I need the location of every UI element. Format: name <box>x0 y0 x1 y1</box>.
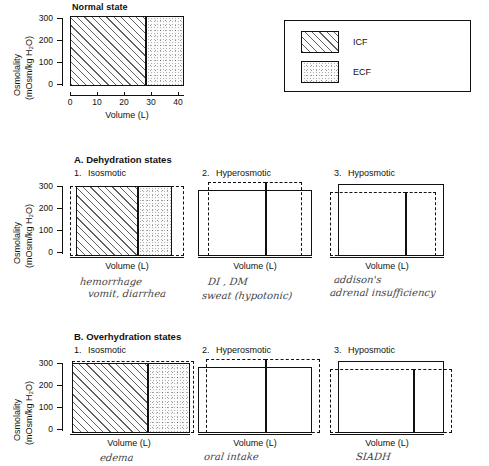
normal-x-tick-mark-30 <box>151 92 152 96</box>
panel-a3-x-axis-label: Volume (L) <box>330 261 444 271</box>
panel-a3-annotation-line-2: adrenal insufficiency <box>329 287 436 298</box>
panel-a2-x-axis-label: Volume (L) <box>198 261 312 271</box>
section-b-heading: B. Overhydration states <box>74 331 181 342</box>
panel-b3-x-axis-spine <box>330 434 444 435</box>
normal-x-tick-30: 30 <box>143 97 159 107</box>
normal-x-tick-mark-40 <box>178 92 179 96</box>
section-a-y-tick-mark-100 <box>57 230 62 231</box>
panel-a1-ecf-block <box>137 186 172 256</box>
panel-a3-icf-ecf-divider <box>405 192 407 256</box>
normal-y-axis-label-line1: Osmolality <box>12 54 22 96</box>
figure-root: { "figure": { "normal": { "title": "Norm… <box>0 0 489 466</box>
section-b-y-axis-label-line2: (mOsm/kg H₂O) <box>24 381 34 445</box>
panel-a1-annotation-line-1: hemorrhage <box>79 276 142 287</box>
normal-x-tick-40: 40 <box>170 97 186 107</box>
normal-ecf-block <box>145 16 184 86</box>
section-a-y-tick-100: 100 <box>28 225 53 235</box>
section-b-y-tick-mark-0 <box>57 429 62 430</box>
panel-b3-icf-ecf-divider <box>413 369 415 433</box>
panel-a3-reference-outline <box>338 184 444 256</box>
normal-x-axis-label: Volume (L) <box>70 110 184 120</box>
panel-b2-hyperosmotic: 2. Hyperosmotic Volume (L) oral intake <box>198 343 326 466</box>
normal-y-tick-100: 100 <box>28 57 53 67</box>
section-b-y-axis-spine <box>62 363 63 431</box>
panel-b2-x-axis-spine <box>198 434 312 435</box>
panel-a1-annotation-line-2: vomit, diarrhea <box>87 288 166 299</box>
panel-b1-number: 1. <box>74 345 82 355</box>
section-a-y-tick-300: 300 <box>28 181 53 191</box>
panel-a2-name: Hyperosmotic <box>216 168 271 178</box>
section-a-y-axis-label-line1: Osmolality <box>12 222 22 264</box>
section-a-y-axis-spine <box>62 186 63 254</box>
legend-label-ecf: ECF <box>353 67 371 77</box>
panel-a1-isosmotic: 1. Isosmotic Volume (L) hemorrhage vomit… <box>70 166 192 316</box>
panel-a2-hyperosmotic: 2. Hyperosmotic Volume (L) DI , DM sweat… <box>198 166 326 316</box>
panel-b2-reference-outline <box>198 367 312 433</box>
panel-b3-name: Hyposmotic <box>348 345 395 355</box>
section-a-y-axis-label-line2: (mOsm/kg H₂O) <box>24 204 34 268</box>
normal-y-tick-0: 0 <box>28 79 53 89</box>
section-b-y-tick-100: 100 <box>28 402 53 412</box>
section-a-y-tick-mark-300 <box>57 186 62 187</box>
section-b-y-tick-mark-300 <box>57 363 62 364</box>
panel-a3-number: 3. <box>334 168 342 178</box>
section-b-y-tick-300: 300 <box>28 358 53 368</box>
normal-x-tick-10: 10 <box>89 97 105 107</box>
panel-a2-reference-outline <box>198 190 312 256</box>
normal-y-tick-mark-300 <box>57 18 62 19</box>
normal-state-title: Normal state <box>72 2 128 12</box>
panel-b3-hyposmotic: 3. Hyposmotic Volume (L) SIADH <box>330 343 489 466</box>
legend-box: ICF ECF <box>284 20 471 92</box>
panel-b2-name: Hyperosmotic <box>216 345 271 355</box>
normal-x-tick-mark-10 <box>97 92 98 96</box>
normal-y-axis-spine <box>62 18 63 86</box>
panel-a1-name: Isosmotic <box>88 168 126 178</box>
normal-y-tick-200: 200 <box>28 35 53 45</box>
normal-y-tick-300: 300 <box>28 13 53 23</box>
normal-y-tick-mark-100 <box>57 62 62 63</box>
panel-b1-x-axis-label: Volume (L) <box>70 438 188 448</box>
panel-a2-annotation-line-1: DI , DM <box>207 276 248 287</box>
panel-a3-annotation-line-1: addison's <box>333 274 382 285</box>
normal-y-tick-mark-200 <box>57 40 62 41</box>
section-a-y-tick-200: 200 <box>28 203 53 213</box>
panel-a1-x-axis-label: Volume (L) <box>70 261 184 271</box>
normal-icf-ecf-divider <box>145 16 147 86</box>
normal-x-tick-mark-0 <box>70 92 71 96</box>
normal-y-tick-mark-0 <box>57 84 62 85</box>
panel-a1-number: 1. <box>74 168 82 178</box>
normal-y-axis-label-line2: (mOsm/kg H₂O) <box>24 36 34 100</box>
panel-normal-state: Normal state Osmolality (mOsm/kg H₂O) 30… <box>0 0 200 130</box>
section-a-heading: A. Dehydration states <box>74 154 172 165</box>
section-a-y-tick-mark-0 <box>57 252 62 253</box>
panel-a1-x-axis-spine <box>70 257 184 258</box>
panel-a2-annotation-line-2: sweat (hypotonic) <box>201 290 293 301</box>
panel-b1-icf-ecf-divider <box>147 363 149 433</box>
section-a-y-tick-0: 0 <box>28 247 53 257</box>
panel-a1-icf-block <box>76 186 138 256</box>
normal-icf-block <box>70 16 146 86</box>
panel-a2-number: 2. <box>202 168 210 178</box>
bottom-caption <box>2 461 482 466</box>
panel-a2-x-axis-spine <box>198 257 312 258</box>
panel-a3-name: Hyposmotic <box>348 168 395 178</box>
legend-swatch-ecf <box>301 61 339 83</box>
panel-b2-icf-ecf-divider <box>265 359 267 433</box>
normal-x-axis-spine <box>70 95 184 96</box>
panel-a3-x-axis-spine <box>330 257 444 258</box>
panel-a2-icf-ecf-divider <box>265 182 267 256</box>
section-b-y-axis: Osmolality (mOsm/kg H₂O) 300 200 100 0 <box>0 345 70 465</box>
section-b-y-tick-0: 0 <box>28 424 53 434</box>
section-a-y-axis: Osmolality (mOsm/kg H₂O) 300 200 100 0 <box>0 168 70 288</box>
panel-b1-ecf-block <box>147 363 190 433</box>
legend-label-icf: ICF <box>353 37 368 47</box>
panel-b1-name: Isosmotic <box>88 345 126 355</box>
normal-x-tick-20: 20 <box>116 97 132 107</box>
section-b-y-tick-mark-100 <box>57 407 62 408</box>
section-b-y-tick-200: 200 <box>28 380 53 390</box>
panel-b3-x-axis-label: Volume (L) <box>330 438 444 448</box>
panel-b1-icf-block <box>72 363 148 433</box>
normal-x-tick-0: 0 <box>62 97 78 107</box>
panel-b2-number: 2. <box>202 345 210 355</box>
section-b-y-tick-mark-200 <box>57 385 62 386</box>
